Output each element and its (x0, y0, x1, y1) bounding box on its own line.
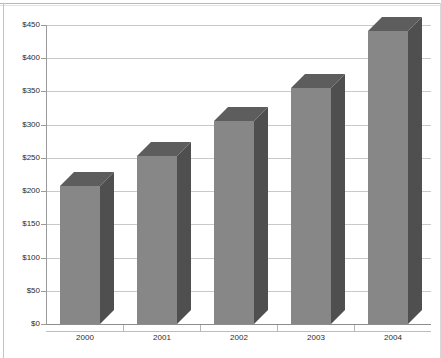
x-axis-label: 2004 (363, 333, 423, 342)
x-axis-separator (123, 325, 124, 331)
y-axis-label: $400 (0, 54, 40, 62)
bar-front-face (137, 156, 177, 324)
x-axis-label: 2000 (55, 333, 115, 342)
bar-2001[interactable] (137, 142, 191, 324)
bar-side-face (177, 142, 191, 324)
y-axis-tick (41, 25, 46, 26)
bar-chart: $0$50$100$150$200$250$300$350$400$450 20… (0, 0, 441, 358)
bar-front-face (60, 186, 100, 324)
bar-side-face (100, 172, 114, 324)
bar-3d-shape (291, 74, 345, 324)
bar-front-face (368, 31, 408, 324)
x-axis-label: 2003 (286, 333, 346, 342)
bar-2004[interactable] (368, 17, 422, 324)
y-axis-label: $350 (0, 87, 40, 95)
bar-3d-shape (60, 172, 114, 324)
y-axis-label: $200 (0, 187, 40, 195)
bar-2003[interactable] (291, 74, 345, 324)
page-top-border (0, 3, 441, 4)
bar-3d-shape (137, 142, 191, 324)
y-axis-label: $250 (0, 154, 40, 162)
y-axis-tick (41, 125, 46, 126)
y-axis-tick (41, 158, 46, 159)
bar-3d-shape (368, 17, 422, 324)
y-axis-line (46, 25, 47, 325)
bar-2000[interactable] (60, 172, 114, 324)
x-axis-label: 2002 (209, 333, 269, 342)
y-axis-tick (41, 324, 46, 325)
bar-side-face (331, 74, 345, 324)
bar-3d-shape (214, 107, 268, 324)
x-axis-separator (354, 325, 355, 331)
y-axis-label: $50 (0, 287, 40, 295)
y-axis-label: $150 (0, 220, 40, 228)
bar-side-face (254, 107, 268, 324)
x-axis-label: 2001 (132, 333, 192, 342)
y-axis-label: $300 (0, 121, 40, 129)
bar-2002[interactable] (214, 107, 268, 324)
y-axis-label: $0 (0, 320, 40, 328)
y-axis-label: $450 (0, 21, 40, 29)
bar-front-face (291, 88, 331, 324)
x-axis-line (46, 331, 431, 332)
bar-side-face (408, 17, 422, 324)
y-axis-label: $100 (0, 254, 40, 262)
y-axis-tick (41, 224, 46, 225)
y-axis-tick (41, 291, 46, 292)
y-axis-tick (41, 191, 46, 192)
gridline (46, 324, 431, 325)
page-top-border-secondary (0, 5, 441, 6)
y-axis-tick (41, 91, 46, 92)
bar-front-face (214, 121, 254, 324)
y-axis-tick (41, 258, 46, 259)
x-axis-separator (200, 325, 201, 331)
x-axis-separator (277, 325, 278, 331)
y-axis-tick (41, 58, 46, 59)
